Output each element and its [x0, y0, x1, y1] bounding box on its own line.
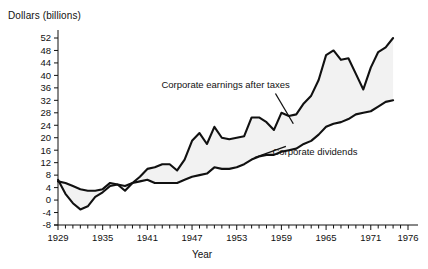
x-tick-label: 1976	[397, 232, 418, 243]
x-tick-label: 1965	[316, 232, 337, 243]
x-axis-title: Year	[0, 249, 428, 260]
y-tick-label: -4	[43, 207, 51, 218]
y-tick-label: 48	[40, 45, 51, 56]
y-tick-label: 16	[40, 145, 51, 156]
x-tick-label: 1941	[137, 232, 158, 243]
y-tick-label: 40	[40, 70, 51, 81]
y-tick-label: -8	[43, 219, 51, 230]
x-tick-label: 1953	[226, 232, 247, 243]
y-tick-label: 36	[40, 82, 51, 93]
x-tick-label: 1947	[181, 232, 202, 243]
y-tick-label: 24	[40, 120, 51, 131]
y-tick-label: 20	[40, 132, 51, 143]
annotation-dividends: Corporate dividends	[272, 146, 357, 157]
y-tick-label: 52	[40, 32, 51, 43]
y-tick-label: 12	[40, 157, 51, 168]
x-tick-label: 1959	[271, 232, 292, 243]
x-tick-label: 1929	[47, 232, 68, 243]
x-tick-label: 1971	[360, 232, 381, 243]
y-tick-label: 44	[40, 57, 51, 68]
x-tick-label: 1935	[92, 232, 113, 243]
chart-figure: Dollars (billions) -8-404812162024283236…	[0, 0, 428, 269]
y-tick-label: 28	[40, 107, 51, 118]
annotation-earnings: Corporate earnings after taxes	[161, 79, 290, 90]
y-tick-label: 32	[40, 95, 51, 106]
chart-canvas: -8-4048121620242832364044485219291935194…	[0, 0, 428, 269]
y-tick-label: 8	[46, 169, 51, 180]
y-tick-label: 0	[46, 194, 51, 205]
y-tick-label: 4	[46, 182, 51, 193]
